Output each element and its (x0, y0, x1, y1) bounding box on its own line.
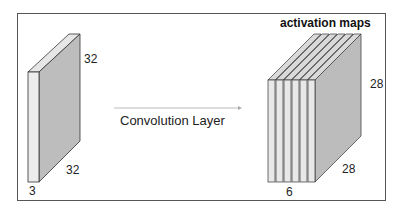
input-width-label: 32 (66, 163, 79, 177)
operation-label: Convolution Layer (120, 113, 225, 128)
input-depth-label: 3 (29, 184, 36, 198)
input-front-face (28, 72, 39, 182)
arrow-icon (114, 106, 242, 110)
output-depth-label: 6 (286, 185, 293, 199)
diagram-graphics (0, 0, 403, 211)
activation-maps-stack (268, 34, 361, 182)
output-width-label: 28 (342, 162, 355, 176)
input-volume (28, 34, 80, 182)
input-height-label: 32 (84, 52, 97, 66)
output-title: activation maps (280, 16, 371, 30)
output-height-label: 28 (370, 77, 383, 91)
